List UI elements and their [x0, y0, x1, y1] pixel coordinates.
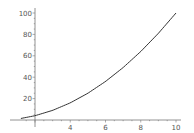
plot-area: 4681020406080100 — [0, 0, 194, 133]
y-tick-label: 60 — [23, 52, 32, 60]
y-tick-label: 100 — [19, 10, 32, 18]
curve — [21, 13, 176, 118]
x-tick-label: 10 — [172, 124, 181, 132]
series-line — [21, 13, 176, 118]
y-tick-label: 20 — [23, 95, 32, 103]
x-tick-label: 8 — [139, 124, 143, 132]
y-tick-label: 80 — [23, 31, 32, 39]
axes: 4681020406080100 — [10, 8, 181, 132]
y-tick-label: 40 — [23, 74, 32, 82]
x-tick-label: 4 — [68, 124, 73, 132]
x-tick-label: 6 — [103, 124, 108, 132]
